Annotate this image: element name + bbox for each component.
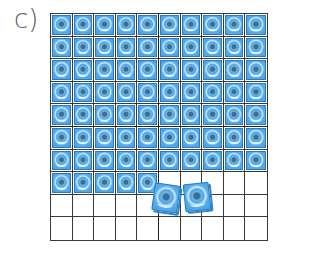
grid-cell-filled [73, 104, 95, 127]
grid-cell-empty [159, 217, 181, 240]
grid-cell-filled [116, 14, 138, 37]
grid-cell-empty [94, 217, 116, 240]
cube-icon [95, 38, 114, 58]
cube-icon [182, 105, 201, 125]
cube-icon [203, 83, 222, 103]
cube-icon [95, 105, 114, 125]
cube-icon [246, 83, 266, 103]
cube-icon [225, 60, 244, 80]
cube-icon [246, 15, 266, 35]
cube-icon [203, 105, 222, 125]
grid-cell-empty [51, 195, 73, 218]
grid-cell-filled [73, 82, 95, 105]
grid-cell-filled [245, 150, 267, 173]
cube-icon [160, 38, 179, 58]
grid-cell-filled [51, 150, 73, 173]
grid-cell-filled [245, 37, 267, 60]
cube-icon [246, 60, 266, 80]
grid-cell-filled [94, 82, 116, 105]
cube-icon [246, 128, 266, 148]
cube-icon [52, 60, 71, 80]
cube-icon [74, 151, 93, 171]
cube-icon [52, 105, 71, 125]
grid-cell-filled [224, 82, 246, 105]
cube-icon [52, 38, 71, 58]
cube-icon [95, 173, 114, 193]
grid-cell-filled [245, 59, 267, 82]
cube-icon [95, 15, 114, 35]
cube-icon [246, 151, 266, 171]
grid-cell-empty [116, 195, 138, 218]
grid-cell-filled [245, 104, 267, 127]
grid-cell-filled [94, 59, 116, 82]
cube-icon [203, 15, 222, 35]
grid-cell-empty [116, 217, 138, 240]
grid-cell-filled [202, 37, 224, 60]
cube-icon [117, 151, 136, 171]
cube-icon [138, 38, 157, 58]
cube-icon [95, 83, 114, 103]
cube-icon [138, 60, 157, 80]
cube-icon [117, 105, 136, 125]
grid-cell-filled [73, 14, 95, 37]
cube-icon [225, 83, 244, 103]
cube-icon [182, 83, 201, 103]
grid-cell-empty [245, 172, 267, 195]
grid-cell-filled [181, 104, 203, 127]
grid-cell-filled [137, 104, 159, 127]
cube-icon [160, 151, 179, 171]
grid-cell-filled [181, 37, 203, 60]
grid-cell-filled [73, 172, 95, 195]
grid-cell-filled [245, 14, 267, 37]
grid-cell-filled [202, 150, 224, 173]
cube-icon [203, 128, 222, 148]
grid-cell-filled [116, 59, 138, 82]
grid-cell-filled [51, 59, 73, 82]
grid-cell-filled [137, 82, 159, 105]
cube-icon [160, 128, 179, 148]
grid-cell-filled [159, 127, 181, 150]
grid-cell-empty [224, 195, 246, 218]
grid-cell-filled [202, 104, 224, 127]
cube-icon [182, 128, 201, 148]
grid-cell-filled [224, 127, 246, 150]
grid-cell-filled [202, 14, 224, 37]
grid-cell-empty [224, 217, 246, 240]
cube-icon [74, 38, 93, 58]
cube-icon [182, 60, 201, 80]
grid-cell-filled [159, 59, 181, 82]
grid-cell-filled [224, 59, 246, 82]
cube-icon [138, 83, 157, 103]
grid-cell-filled [51, 37, 73, 60]
grid-cell-filled [51, 82, 73, 105]
grid-cell-empty [73, 217, 95, 240]
cube-icon [225, 15, 244, 35]
grid-cell-filled [224, 104, 246, 127]
cube-icon [182, 151, 201, 171]
grid-cell-filled [51, 104, 73, 127]
grid-cell-filled [73, 150, 95, 173]
grid-cell-filled [94, 104, 116, 127]
grid-cell-filled [116, 172, 138, 195]
grid-cell-filled [224, 150, 246, 173]
grid-cell-empty [224, 172, 246, 195]
grid-cell-filled [181, 59, 203, 82]
cube-icon [160, 105, 179, 125]
cube-icon [160, 15, 179, 35]
cube-icon [160, 60, 179, 80]
grid-cell-filled [116, 82, 138, 105]
cube-icon [203, 151, 222, 171]
cube-icon [138, 105, 157, 125]
grid-cell-filled [224, 14, 246, 37]
cube-icon [151, 182, 181, 213]
grid-cell-filled [137, 150, 159, 173]
cube-icon [160, 83, 179, 103]
cube-icon [138, 151, 157, 171]
grid-cell-filled [202, 59, 224, 82]
grid-cell-empty [202, 217, 224, 240]
grid-cell-filled [94, 127, 116, 150]
cube-icon [203, 60, 222, 80]
grid-cell-filled [116, 104, 138, 127]
cube-icon [117, 15, 136, 35]
grid-cell-filled [116, 37, 138, 60]
